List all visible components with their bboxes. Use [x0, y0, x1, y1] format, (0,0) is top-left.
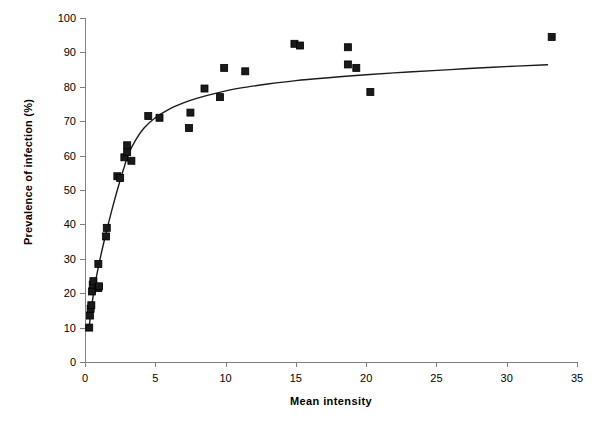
data-point-marker — [156, 114, 163, 121]
data-point-marker — [103, 233, 110, 240]
data-point-marker — [548, 33, 555, 40]
data-point-marker — [103, 224, 110, 231]
axes — [80, 18, 578, 367]
data-point-marker — [88, 302, 95, 309]
data-point-marker — [344, 44, 351, 51]
data-point-marker — [86, 312, 93, 319]
data-point-marker — [186, 125, 193, 132]
data-point-marker — [297, 42, 304, 49]
data-point-marker — [344, 61, 351, 68]
data-point-marker — [145, 113, 152, 120]
data-point-marker — [201, 85, 208, 92]
plot-area — [0, 0, 608, 427]
data-point-marker — [86, 324, 93, 331]
data-point-marker — [187, 109, 194, 116]
data-point-marker — [124, 142, 131, 149]
data-point-marker — [367, 88, 374, 95]
data-point-marker — [117, 174, 124, 181]
chart-container: Prevalence of infection (%) Mean intensi… — [0, 0, 608, 427]
data-point-marker — [221, 64, 228, 71]
data-point-marker — [242, 68, 249, 75]
data-point-marker — [95, 260, 102, 267]
data-point-marker — [216, 94, 223, 101]
fit-curve — [89, 65, 548, 330]
data-point-marker — [353, 64, 360, 71]
data-point-marker — [96, 283, 103, 290]
data-point-marker — [124, 149, 131, 156]
data-point-marker — [128, 157, 135, 164]
